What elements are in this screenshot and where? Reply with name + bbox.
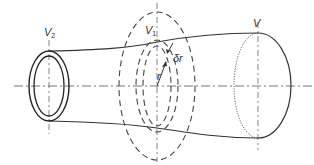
label-dr: δr — [173, 52, 184, 64]
label-v1: V1 — [145, 24, 156, 37]
tube-lower-contour — [49, 121, 258, 138]
outlet-front-half — [258, 33, 291, 138]
radius-arrowhead — [162, 61, 167, 67]
outlet-hidden-half — [234, 33, 258, 138]
label-v2: V2 — [44, 26, 55, 39]
stream-tube-diagram: V2 V1 V δr r — [0, 0, 314, 165]
label-v: V — [253, 17, 262, 29]
